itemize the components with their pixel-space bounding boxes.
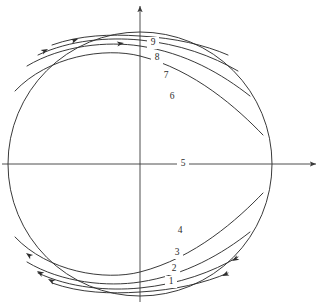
flow-direction-arrow-group — [24, 37, 239, 285]
streamline-label-4: 4 — [178, 225, 183, 235]
streamline-label-7: 7 — [164, 70, 169, 80]
streamline-6 — [15, 53, 263, 135]
streamline-figure: 123456789 — [0, 0, 325, 305]
streamline-label-group: 123456789 — [147, 37, 189, 288]
flow-arrow-4-1 — [24, 251, 33, 259]
streamline-label-2: 2 — [172, 263, 177, 273]
streamline-7 — [27, 44, 250, 96]
streamline-label-3: 3 — [175, 247, 180, 257]
streamline-label-6: 6 — [170, 91, 175, 101]
streamline-3 — [27, 232, 250, 284]
streamline-label-8: 8 — [155, 52, 160, 62]
streamline-label-1: 1 — [169, 276, 174, 286]
streamline-2 — [38, 257, 238, 289]
streamline-label-9: 9 — [151, 37, 156, 47]
plot-canvas: 123456789 — [0, 0, 325, 305]
flow-arrow-1-1 — [221, 271, 230, 279]
flow-arrow-9-2 — [117, 40, 125, 46]
streamline-4 — [15, 193, 263, 275]
streamline-8 — [38, 39, 238, 71]
streamline-label-5: 5 — [181, 158, 186, 168]
